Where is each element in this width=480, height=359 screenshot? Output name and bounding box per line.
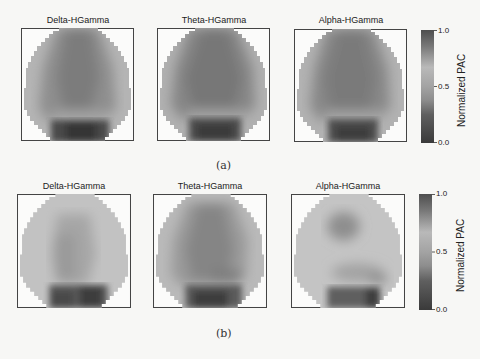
panel-title-b-alpha: Alpha-HGamma: [291, 181, 405, 191]
colorbar-a-tick-05: 0.5: [438, 82, 449, 91]
colorbar-b-label: Normalized PAC: [455, 219, 466, 292]
colorbar-b-tick-1: 1.0: [436, 189, 447, 198]
heatmap-a-alpha: [294, 29, 407, 142]
subfigure-label-a: (a): [216, 159, 231, 172]
colorbar-b: [419, 194, 435, 311]
panel-title-a-theta: Theta-HGamma: [157, 15, 271, 25]
colorbar-b-tick-05: 0.5: [436, 247, 447, 256]
heatmap-a-theta: [157, 28, 270, 141]
colorbar-a-label: Normalized PAC: [456, 54, 467, 127]
heatmap-b-alpha: [291, 194, 405, 308]
panel-title-b-delta: Delta-HGamma: [17, 181, 131, 191]
colorbar-a-tick-1: 1.0: [438, 26, 449, 35]
heatmap-b-theta: [153, 194, 267, 308]
colorbar-a-tick-0: 0.0: [438, 138, 449, 147]
colorbar-b-tick-0: 0.0: [436, 305, 447, 314]
heatmap-b-delta: [17, 194, 131, 308]
colorbar-a: [421, 30, 437, 144]
panel-title-a-delta: Delta-HGamma: [21, 15, 135, 25]
panel-title-a-alpha: Alpha-HGamma: [294, 15, 408, 25]
heatmap-a-delta: [21, 28, 134, 141]
subfigure-label-b: (b): [216, 327, 232, 340]
panel-title-b-theta: Theta-HGamma: [153, 181, 267, 191]
